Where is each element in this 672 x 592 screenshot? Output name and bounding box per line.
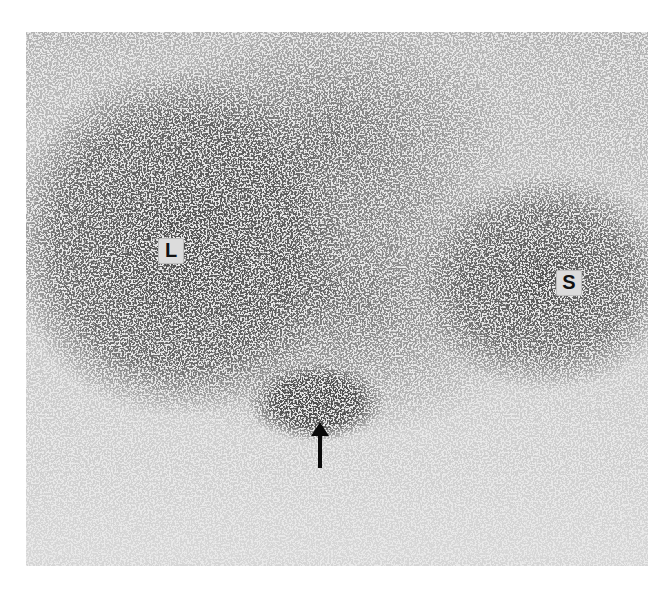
scan-image: L S	[26, 32, 648, 566]
label-l: L	[158, 238, 184, 264]
label-s: S	[556, 270, 582, 296]
scan-speckle	[26, 32, 648, 566]
up-arrow-icon	[310, 422, 330, 468]
